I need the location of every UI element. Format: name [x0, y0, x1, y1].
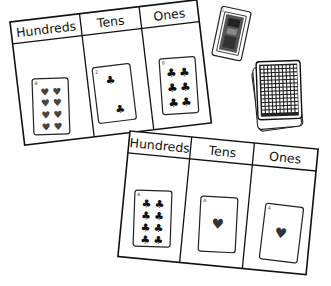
heart-icon: ♥	[274, 224, 288, 241]
card-6-clubs: 6 ♣♣ ♣♣ ♣♣	[159, 56, 199, 114]
heart-icon: ♥	[211, 216, 224, 233]
svg-text:♣: ♣	[180, 80, 192, 95]
svg-text:♥: ♥	[41, 97, 50, 108]
card-8-hearts: 8 ♥♥ ♥♥ ♥♥ ♥♥	[32, 78, 70, 135]
svg-text:♥: ♥	[41, 109, 50, 120]
place-value-scene: Hundreds Tens Ones 8 ♥♥ ♥♥ ♥♥ ♥♥ 2 ♣ ♣ 6…	[0, 0, 331, 286]
svg-text:♣: ♣	[114, 102, 125, 116]
svg-text:♣: ♣	[153, 234, 163, 247]
svg-text:♣: ♣	[179, 65, 191, 80]
svg-text:♣: ♣	[105, 73, 116, 87]
card-rank: 6	[162, 61, 165, 66]
card-ace-hearts-tens: A ♥	[198, 196, 238, 253]
card-8-clubs: 8 ♣♣ ♣♣ ♣♣ ♣♣	[133, 190, 172, 247]
svg-text:♣: ♣	[140, 233, 150, 246]
svg-text:♥: ♥	[40, 86, 49, 97]
svg-text:♥: ♥	[53, 97, 62, 108]
svg-text:♥: ♥	[41, 121, 50, 132]
svg-text:♣: ♣	[181, 95, 193, 110]
svg-text:♥: ♥	[52, 86, 61, 97]
card-ace-hearts-ones: A ♥	[259, 203, 304, 263]
bottom-mat-header-tens: Tens	[207, 143, 237, 161]
svg-text:♥: ♥	[53, 109, 62, 120]
card-2-clubs: 2 ♣ ♣	[92, 63, 137, 123]
face-card-icon: J	[212, 6, 252, 61]
card-deck-icon	[251, 60, 303, 132]
svg-text:♥: ♥	[53, 121, 62, 132]
svg-text:♣: ♣	[167, 81, 179, 96]
bottom-mat-header-ones: Ones	[269, 148, 302, 166]
card-rank: 8	[137, 192, 140, 197]
svg-text:♣: ♣	[166, 66, 178, 81]
svg-text:♣: ♣	[168, 96, 180, 111]
card-rank: 8	[35, 81, 38, 86]
